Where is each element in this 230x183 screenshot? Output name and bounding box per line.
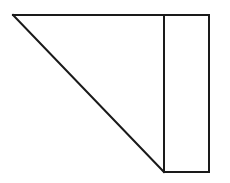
rectangle-region bbox=[164, 15, 209, 172]
geometric-figure-canvas bbox=[0, 0, 230, 183]
